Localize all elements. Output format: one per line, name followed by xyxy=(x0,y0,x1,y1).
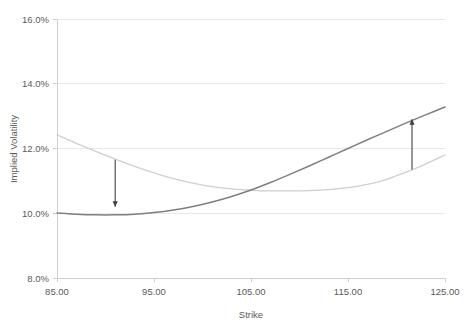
x-axis-tick-labels: 85.0095.00105.00115.00125.00 xyxy=(45,286,459,297)
x-tick-label-0: 85.00 xyxy=(45,286,69,297)
y-tick-label-4: 16.0% xyxy=(22,14,49,25)
up-arrow xyxy=(409,119,414,169)
y-tick-label-2: 12.0% xyxy=(22,143,49,154)
chart-canvas: 8.0%10.0%12.0%14.0%16.0% 85.0095.00105.0… xyxy=(0,0,474,325)
tick-marks-group xyxy=(53,19,445,282)
gridlines-group xyxy=(57,19,445,278)
implied-volatility-chart: 8.0%10.0%12.0%14.0%16.0% 85.0095.00105.0… xyxy=(0,0,474,325)
y-axis-title: Implied Volatility xyxy=(8,115,19,183)
y-axis-tick-labels: 8.0%10.0%12.0%14.0%16.0% xyxy=(22,14,49,284)
x-tick-label-3: 115.00 xyxy=(334,286,362,297)
x-tick-label-4: 125.00 xyxy=(430,286,459,297)
x-tick-label-2: 105.00 xyxy=(236,286,265,297)
y-tick-label-0: 8.0% xyxy=(27,273,49,284)
annotations-group xyxy=(113,119,415,206)
x-tick-label-1: 95.00 xyxy=(142,286,166,297)
x-axis-title: Strike xyxy=(239,309,263,320)
down-arrow-head xyxy=(113,201,118,207)
y-tick-label-3: 14.0% xyxy=(22,78,49,89)
y-tick-label-1: 10.0% xyxy=(22,208,49,219)
down-arrow xyxy=(113,160,118,207)
